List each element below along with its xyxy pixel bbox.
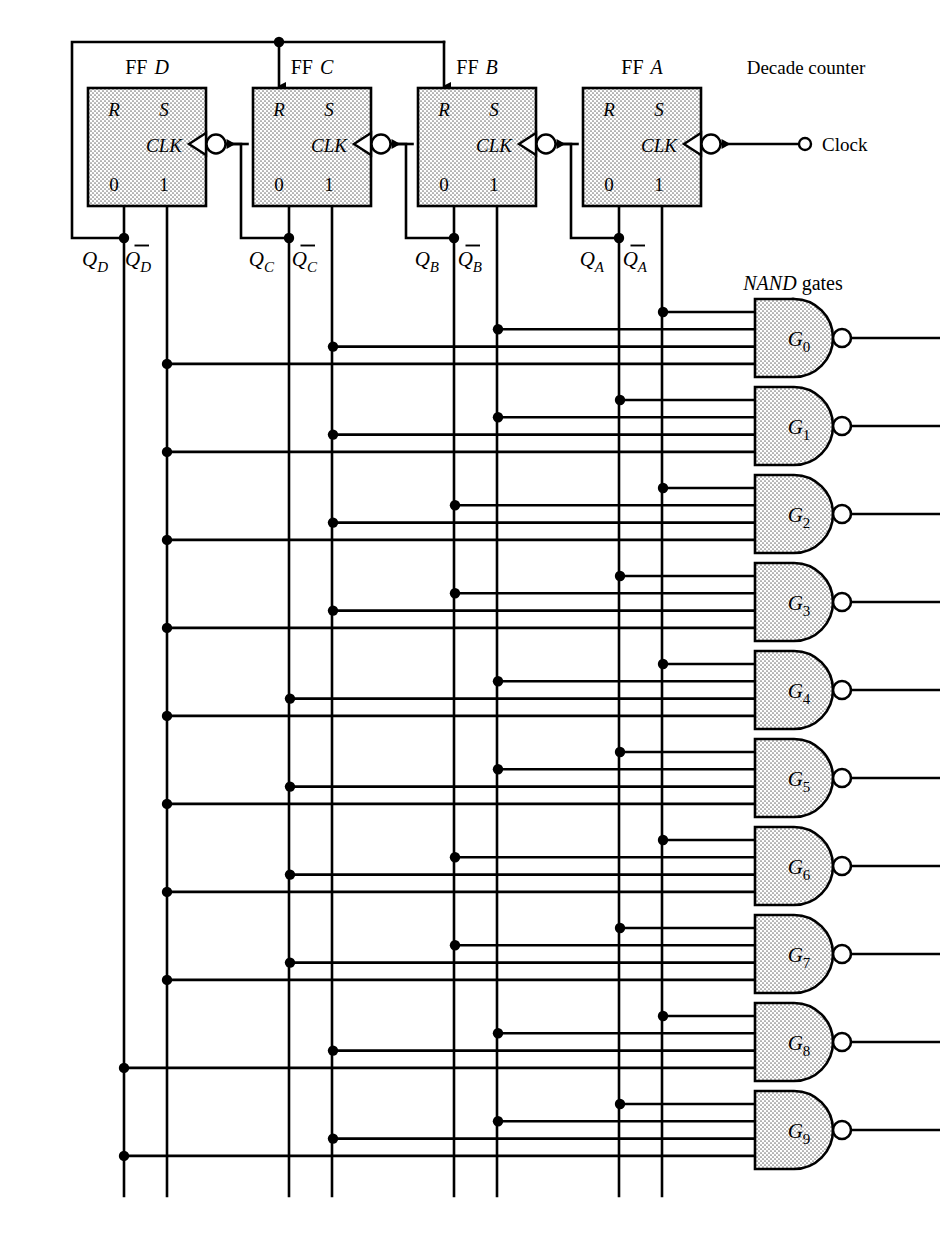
nand-gate-G8 — [755, 1003, 940, 1081]
pin-R-C: R — [272, 99, 285, 120]
tap-dot-2-QCbar — [328, 517, 338, 527]
svg-text:QB: QB — [415, 247, 439, 275]
tap-dot-3-QCbar — [328, 605, 338, 615]
tap-dot-1-QCbar — [328, 429, 338, 439]
bus-label-QA-bar: QA — [623, 246, 648, 276]
tap-dot-3-QB — [450, 588, 460, 598]
tap-dot-2-QB — [450, 500, 460, 510]
pin-R-B: R — [437, 99, 450, 120]
tap-dot-9-QBbar — [493, 1116, 503, 1126]
tap-dot-6-QDbar — [162, 887, 172, 897]
gate-bubble-6 — [833, 857, 851, 875]
clock-tap-dot-A — [614, 233, 624, 243]
tap-dot-0-QAbar — [658, 307, 668, 317]
pin-CLK-C: CLK — [311, 135, 348, 156]
pin-1-B: 1 — [489, 174, 499, 195]
clock-label: Clock — [822, 134, 868, 155]
tap-dot-6-QAbar — [658, 835, 668, 845]
nand-gates-note: NAND gates — [742, 272, 843, 295]
tap-dot-6-QC — [285, 869, 295, 879]
bus-label-QD: QD — [82, 247, 108, 275]
tap-dot-4-QDbar — [162, 711, 172, 721]
tap-dot-7-QDbar — [162, 975, 172, 985]
gate-bubble-1 — [833, 417, 851, 435]
gate-bubble-4 — [833, 681, 851, 699]
svg-text:QC: QC — [292, 247, 318, 275]
gate-bubble-9 — [833, 1121, 851, 1139]
pin-CLK-D: CLK — [146, 135, 183, 156]
svg-text:QC: QC — [249, 247, 275, 275]
tap-dot-9-QD — [119, 1151, 129, 1161]
tap-dot-9-QCbar — [328, 1133, 338, 1143]
pin-S-B: S — [489, 99, 499, 120]
gate-bubble-2 — [833, 505, 851, 523]
nand-gate-G2 — [755, 475, 940, 553]
tap-dot-3-QDbar — [162, 623, 172, 633]
clock-tap-dot-B — [449, 233, 459, 243]
pin-S-C: S — [324, 99, 334, 120]
pin-S-A: S — [654, 99, 664, 120]
clock-tap-dot-C — [284, 233, 294, 243]
flipflop-C: RSCLK01 — [253, 88, 391, 206]
tap-dot-7-QB — [450, 940, 460, 950]
bus-label-QC-bar: QC — [292, 246, 318, 276]
tap-dot-1-QBbar — [493, 412, 503, 422]
svg-text:QA: QA — [580, 247, 605, 275]
pin-S-D: S — [159, 99, 169, 120]
flipflop-B: RSCLK01 — [418, 88, 556, 206]
svg-text:QA: QA — [623, 247, 648, 275]
svg-text:QB: QB — [458, 247, 482, 275]
bus-label-QD-bar: QD — [125, 246, 151, 276]
svg-text:QD: QD — [82, 247, 108, 275]
tap-dot-7-QA — [615, 923, 625, 933]
tap-dot-0-QCbar — [328, 341, 338, 351]
gate-bubble-3 — [833, 593, 851, 611]
tap-dot-2-QDbar — [162, 535, 172, 545]
tap-dot-8-QBbar — [493, 1028, 503, 1038]
nand-gate-G5 — [755, 739, 940, 817]
clock-terminal — [799, 138, 811, 150]
nand-gate-G4 — [755, 651, 940, 729]
gate-bubble-8 — [833, 1033, 851, 1051]
pin-1-A: 1 — [654, 174, 664, 195]
pin-1-C: 1 — [324, 174, 334, 195]
tap-dot-5-QBbar — [493, 764, 503, 774]
tap-dot-1-QA — [615, 395, 625, 405]
pin-CLK-B: CLK — [476, 135, 513, 156]
pin-0-B: 0 — [439, 174, 449, 195]
nand-gate-G6 — [755, 827, 940, 905]
feedback-junction-dot — [274, 37, 284, 47]
flipflop-title-A: FFA — [621, 56, 663, 78]
circuit-canvas: RSCLK01RSCLK01RSCLK01RSCLK01 FFDFFCFFBFF… — [0, 0, 948, 1242]
svg-text:QD: QD — [125, 247, 151, 275]
nand-gate-G3 — [755, 563, 940, 641]
pin-0-D: 0 — [109, 174, 119, 195]
bus-label-QB: QB — [415, 247, 439, 275]
nand-gate-G0 — [755, 299, 940, 377]
flipflop-title-D: FFD — [125, 56, 169, 78]
tap-dot-9-QA — [615, 1099, 625, 1109]
tap-dot-0-QBbar — [493, 324, 503, 334]
tap-dot-8-QAbar — [658, 1011, 668, 1021]
gate-bubble-5 — [833, 769, 851, 787]
gate-bubble-0 — [833, 329, 851, 347]
tap-dot-4-QC — [285, 693, 295, 703]
bus-label-QB-bar: QB — [458, 246, 482, 276]
qd-tap-dot — [119, 233, 129, 243]
tap-dot-8-QCbar — [328, 1045, 338, 1055]
flipflop-title-B: FFB — [456, 56, 497, 78]
pin-R-A: R — [602, 99, 615, 120]
flipflop-A: RSCLK01 — [583, 88, 721, 206]
nand-gate-G7 — [755, 915, 940, 993]
flipflop-title-C: FFC — [291, 56, 334, 78]
nand-gate-G9 — [755, 1091, 940, 1169]
nand-gate-G1 — [755, 387, 940, 465]
tap-dot-4-QAbar — [658, 659, 668, 669]
flipflop-D: RSCLK01 — [88, 88, 226, 206]
tap-dot-2-QAbar — [658, 483, 668, 493]
tap-dot-5-QA — [615, 747, 625, 757]
pin-0-C: 0 — [274, 174, 284, 195]
pin-R-D: R — [107, 99, 120, 120]
pin-CLK-A: CLK — [641, 135, 678, 156]
tap-dot-3-QA — [615, 571, 625, 581]
